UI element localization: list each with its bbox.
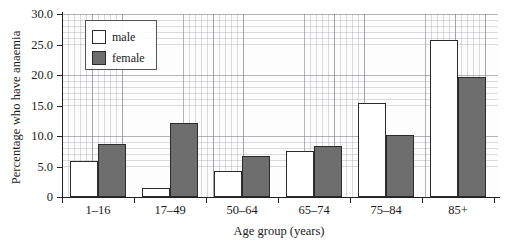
- legend-label-female: female: [112, 52, 145, 64]
- bar-female-17-49: [170, 123, 198, 197]
- legend: male female: [85, 20, 157, 70]
- x-tick-label-85-plus: 85+: [448, 203, 468, 218]
- y-tick-line-25: [57, 45, 63, 46]
- y-tick-line-20: [57, 75, 63, 76]
- bar-male-85-plus: [430, 40, 458, 197]
- y-tick-line-30: [57, 14, 63, 15]
- bar-female-65-74: [314, 146, 342, 197]
- bar-female-85-plus: [458, 77, 486, 197]
- y-tick-line-15: [57, 106, 63, 107]
- x-tick-sep-2: [206, 197, 207, 203]
- y-tick-label-5: 5.0: [0, 159, 53, 174]
- x-tick-sep-3: [278, 197, 279, 203]
- plot-area: male female: [62, 14, 498, 197]
- y-tick-label-30: 30.0: [0, 7, 53, 22]
- x-tick-label-50-64: 50–64: [226, 203, 257, 218]
- y-tick-label-0: 0: [0, 190, 53, 205]
- legend-item-female: female: [92, 47, 156, 68]
- y-tick-line-5: [57, 167, 63, 168]
- y-tick-label-25: 25.0: [0, 37, 53, 52]
- bar-female-50-64: [242, 156, 270, 197]
- x-tick-label-65-74: 65–74: [298, 203, 329, 218]
- legend-item-male: male: [92, 26, 156, 47]
- legend-swatch-male-icon: [92, 30, 106, 44]
- bar-male-65-74: [286, 151, 314, 197]
- bar-male-50-64: [214, 171, 242, 197]
- y-tick-line-10: [57, 136, 63, 137]
- x-tick-label-17-49: 17–49: [154, 203, 185, 218]
- x-axis-title: Age group (years): [0, 224, 508, 239]
- x-tick-sep-4: [350, 197, 351, 203]
- y-tick-label-20: 20.0: [0, 68, 53, 83]
- bar-male-75-84: [358, 103, 386, 197]
- bar-chart: Percentage who have anaemia male: [0, 0, 508, 246]
- x-tick-label-1-16: 1–16: [86, 203, 111, 218]
- legend-label-male: male: [112, 31, 135, 43]
- x-tick-sep-0: [62, 197, 63, 203]
- x-tick-sep-1: [134, 197, 135, 203]
- y-tick-label-10: 10.0: [0, 129, 53, 144]
- legend-swatch-female-icon: [92, 51, 106, 65]
- x-axis-line: [60, 197, 500, 198]
- bar-female-75-84: [386, 135, 414, 197]
- x-tick-label-75-84: 75–84: [370, 203, 401, 218]
- y-tick-label-15: 15.0: [0, 98, 53, 113]
- bar-male-1-16: [70, 161, 98, 197]
- x-tick-sep-6: [494, 197, 495, 203]
- bar-female-1-16: [98, 144, 126, 197]
- x-tick-sep-5: [422, 197, 423, 203]
